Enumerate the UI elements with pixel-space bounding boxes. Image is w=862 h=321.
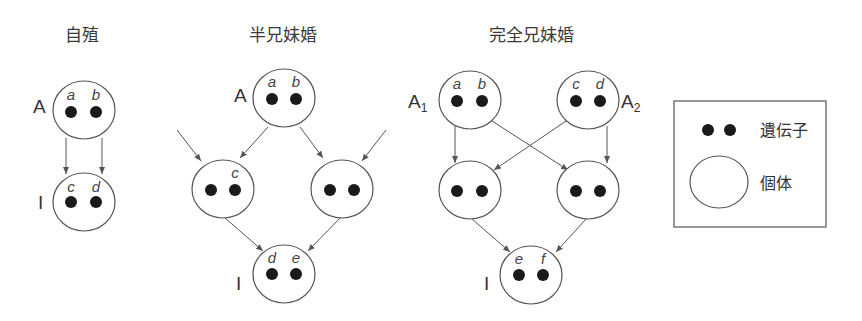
individual-icon xyxy=(690,156,748,208)
inheritance-arrow xyxy=(362,130,386,161)
panel-title: 完全兄妹婚 xyxy=(489,25,574,45)
individual-mid-right xyxy=(557,161,619,219)
individual-mid-right xyxy=(311,160,373,218)
gene-label: a xyxy=(453,75,461,92)
gene-dot xyxy=(65,106,77,118)
inheritance-arrow xyxy=(494,121,566,170)
parent2-label: A2 xyxy=(621,91,641,115)
panel-title: 半兄妹婚 xyxy=(249,25,317,45)
parent-label: A xyxy=(234,85,247,106)
legend-individual-label: 個体 xyxy=(760,174,792,193)
gene-label: e xyxy=(515,250,523,267)
panel-selfing: 自殖 A a b I c d xyxy=(33,25,115,231)
individual-offspring: e f xyxy=(500,246,562,304)
inheritance-arrow xyxy=(300,127,323,158)
offspring-label: I xyxy=(38,192,43,213)
inheritance-arrow xyxy=(308,218,340,251)
gene-label: b xyxy=(92,86,100,103)
legend-gene-label: 遺伝子 xyxy=(760,121,808,140)
inheritance-arrow xyxy=(556,219,586,252)
gene-label: c xyxy=(572,75,580,92)
gene-label: d xyxy=(92,178,101,195)
gene-label: b xyxy=(478,75,486,92)
gene-label: e xyxy=(292,249,300,266)
individual-mid-left: c xyxy=(192,160,254,218)
gene-icon xyxy=(724,124,736,136)
panel-half-sib: 半兄妹婚 A a b c I d xyxy=(177,25,386,303)
gene-icon xyxy=(702,124,714,136)
inheritance-arrow xyxy=(240,127,268,158)
individual-offspring: c d xyxy=(53,173,115,231)
gene-label: b xyxy=(292,73,300,90)
legend-box: 遺伝子 個体 xyxy=(674,101,826,227)
gene-label: c xyxy=(231,164,239,181)
gene-dot xyxy=(90,106,102,118)
individual-parent: a b xyxy=(253,69,315,127)
panel-title: 自殖 xyxy=(65,25,99,45)
individual-offspring: d e xyxy=(253,245,315,303)
individual-mid-left xyxy=(439,161,501,219)
parent1-label: A1 xyxy=(408,91,428,115)
gene-label: a xyxy=(268,73,276,90)
individual-parent-1: a b xyxy=(439,71,501,129)
parent-label: A xyxy=(33,96,46,117)
individual-parent: a b xyxy=(53,81,115,139)
gene-label: d xyxy=(268,249,277,266)
gene-label: a xyxy=(67,86,75,103)
inheritance-arrow xyxy=(177,130,201,161)
panel-full-sib: 完全兄妹婚 A1 a b c d A2 xyxy=(408,25,641,304)
gene-label: d xyxy=(596,75,605,92)
offspring-label: I xyxy=(236,273,241,294)
inbreeding-diagram: 自殖 A a b I c d 半兄妹婚 A a b xyxy=(0,0,862,321)
offspring-label: I xyxy=(484,273,489,294)
gene-label: c xyxy=(67,178,75,195)
inheritance-arrow xyxy=(225,218,263,251)
inheritance-arrow xyxy=(472,219,510,252)
individual-parent-2: c d xyxy=(557,71,619,129)
